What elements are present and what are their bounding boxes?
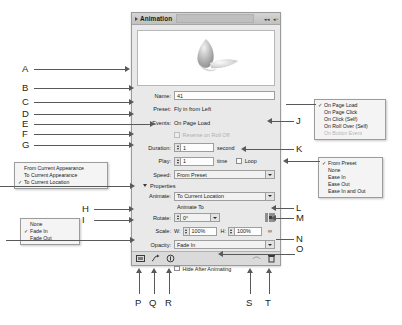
panel-title-bar[interactable]: Animation ◂◂ ◂▫	[132, 13, 280, 25]
panel-window-controls[interactable]: ◂◂ ◂▫	[264, 13, 278, 24]
speed-menu[interactable]: ✓From Preset None Ease In Ease Out Ease …	[318, 157, 383, 198]
speed-label: Speed:	[137, 172, 174, 178]
row-name: Name: 41	[137, 90, 275, 101]
row-animate: Animate: To Current Location	[137, 191, 275, 202]
events-menu-item-label: On Roll Over (Self)	[324, 123, 368, 129]
leader-opacity-menu	[6, 240, 131, 241]
leader-f-arrow	[129, 131, 134, 137]
panel-minimize-icon[interactable]: ◂◂	[264, 16, 270, 22]
panel-collapse-triangle-icon[interactable]	[135, 17, 138, 21]
leader-k	[246, 149, 294, 150]
callout-letter-p: P	[135, 297, 142, 308]
events-value[interactable]: On Page Load	[174, 120, 210, 126]
leader-d	[34, 114, 130, 115]
panel-close-icon[interactable]: ◂▫	[273, 16, 278, 22]
callout-letter-q: Q	[149, 297, 157, 308]
duration-input[interactable]: 1	[180, 143, 214, 152]
leader-i-arrow	[129, 217, 134, 223]
speed-menu-item-3[interactable]: Ease Out	[319, 181, 382, 188]
callout-letter-k: K	[296, 143, 303, 154]
play-count-input[interactable]: 1	[180, 157, 214, 166]
events-menu-item-1[interactable]: On Page Click	[315, 109, 385, 116]
leader-p	[139, 272, 140, 294]
callout-letter-c: C	[22, 96, 29, 107]
speed-menu-item-label: None	[328, 167, 340, 173]
create-button-trigger-icon[interactable]	[166, 254, 175, 263]
preset-value[interactable]: Fly in from Left	[174, 106, 211, 112]
speed-menu-item-0[interactable]: ✓From Preset	[319, 160, 382, 167]
convert-to-motion-path-icon[interactable]	[151, 254, 160, 263]
leader-f	[34, 134, 130, 135]
rotate-dropdown-chevron-down-icon[interactable]	[210, 214, 219, 221]
manage-presets-icon[interactable]	[252, 254, 261, 263]
leader-m-arrow	[271, 215, 276, 221]
leader-b-arrow	[129, 85, 134, 91]
preview-spread-icon[interactable]	[136, 254, 145, 263]
leader-o-arrow	[218, 251, 223, 257]
name-input[interactable]: 41	[174, 91, 275, 100]
animation-preview[interactable]	[137, 30, 275, 86]
play-label: Play:	[137, 158, 174, 164]
callout-letter-g: G	[22, 139, 30, 150]
opacity-dropdown-chevron-down-icon[interactable]	[265, 241, 274, 248]
opacity-menu-item-label: Fade In	[30, 228, 48, 234]
animate-menu[interactable]: From Current Appearance To Current Appea…	[14, 162, 108, 189]
animate-menu-item-2[interactable]: ✓To Current Location	[15, 179, 107, 186]
opacity-menu-item-1[interactable]: ✓Fade In	[21, 228, 79, 235]
leader-j	[272, 121, 294, 122]
duration-unit-label: second	[217, 145, 234, 151]
animate-menu-item-1[interactable]: To Current Appearance	[15, 172, 107, 179]
leader-a	[34, 69, 126, 70]
reverse-on-roll-off-label: Reverse on Roll Off	[183, 132, 230, 138]
speed-menu-item-4[interactable]: Ease In and Out	[319, 188, 382, 195]
events-menu-item-3[interactable]: On Roll Over (Self)	[315, 123, 385, 130]
properties-triangle-icon[interactable]	[143, 184, 147, 187]
leader-k-arrow	[241, 146, 246, 152]
reverse-on-roll-off-checkbox[interactable]	[174, 132, 180, 138]
scale-w-input[interactable]: 100%	[189, 227, 217, 236]
callout-letter-b: B	[22, 82, 29, 93]
speed-menu-item-2[interactable]: Ease In	[319, 174, 382, 181]
rotate-dropdown[interactable]: 0°	[180, 213, 220, 222]
animation-panel[interactable]: Animation ◂◂ ◂▫	[131, 12, 281, 266]
callout-letter-r: R	[165, 297, 172, 308]
speed-dropdown-chevron-down-icon[interactable]	[265, 171, 274, 178]
figure-root: Animation ◂◂ ◂▫	[0, 0, 402, 325]
opacity-dropdown[interactable]: Fade In	[174, 240, 275, 249]
constrain-proportions-link-icon[interactable]: ∞	[265, 227, 275, 236]
duration-label: Duration:	[137, 145, 174, 151]
row-speed: Speed: From Preset	[137, 169, 275, 180]
leader-p-arrow	[136, 268, 142, 273]
leader-n	[276, 239, 294, 240]
events-menu-item-0[interactable]: ✓On Page Load	[315, 102, 385, 109]
leader-h	[94, 209, 130, 210]
animate-dropdown-chevron-down-icon[interactable]	[265, 193, 274, 200]
properties-disclosure[interactable]: Properties	[143, 183, 275, 189]
speed-dropdown[interactable]: From Preset	[174, 170, 275, 179]
loop-checkbox[interactable]	[236, 158, 242, 164]
callout-letter-s: S	[246, 297, 253, 308]
animate-menu-item-0[interactable]: From Current Appearance	[15, 165, 107, 172]
animate-to-subheading: Animate To	[177, 204, 275, 210]
animate-menu-item-label: From Current Appearance	[24, 165, 84, 171]
events-menu-item-label: On Page Load	[324, 102, 357, 108]
delete-icon[interactable]	[267, 254, 276, 263]
leader-c	[34, 102, 130, 103]
animate-dropdown[interactable]: To Current Location	[174, 192, 275, 201]
check-icon: ✓	[318, 102, 322, 109]
scale-h-input[interactable]: 100%	[234, 227, 262, 236]
scale-h-label: H:	[221, 228, 226, 234]
panel-tab-filler	[176, 14, 254, 23]
events-menu[interactable]: ✓On Page Load On Page Click On Click (Se…	[314, 99, 386, 140]
opacity-menu-item-0[interactable]: None	[21, 221, 79, 228]
row-reverse: Reverse on Roll Off	[137, 131, 275, 140]
leader-j-arrow	[267, 118, 272, 124]
speed-menu-item-1[interactable]: None	[319, 167, 382, 174]
hide-after-animating-label: Hide After Animating	[183, 266, 232, 272]
leader-d-arrow	[129, 111, 134, 117]
row-hide-after: Hide After Animating	[137, 264, 275, 273]
events-menu-item-2[interactable]: On Click (Self)	[315, 116, 385, 123]
events-menu-item-label: On Click (Self)	[324, 116, 357, 122]
hide-after-animating-checkbox[interactable]	[174, 266, 180, 272]
panel-title-label: Animation	[140, 15, 172, 22]
